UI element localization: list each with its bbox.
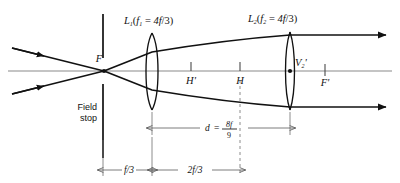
field-stop-label: Field stop bbox=[77, 102, 97, 123]
incoming-ray-upper bbox=[12, 48, 104, 71]
lens1-equals: = bbox=[142, 15, 153, 26]
label-F: F bbox=[95, 53, 103, 64]
label-H-prime: H' bbox=[185, 75, 197, 86]
label-V2-prime: V2' bbox=[295, 57, 307, 69]
lens2-equals: = bbox=[266, 13, 277, 24]
focal-point-F-marker bbox=[102, 69, 106, 73]
lens2-label: L2(f2 = 4f/3) bbox=[247, 13, 298, 25]
vertex-V2-marker bbox=[288, 69, 292, 73]
field-stop-line1: Field bbox=[77, 102, 97, 112]
dimension-d-label: d = 8f 9 bbox=[205, 120, 237, 140]
dimension-stop-to-lens1-label: f/3 bbox=[124, 165, 134, 175]
label-H: H bbox=[235, 75, 245, 86]
svg-text:V2': V2' bbox=[295, 57, 307, 69]
dimension-d bbox=[152, 112, 290, 135]
vertex2-prime: ' bbox=[304, 57, 307, 68]
lens2-focal-value-den: /3 bbox=[286, 13, 294, 24]
svg-text:L1(f1 = 4f/3): L1(f1 = 4f/3) bbox=[123, 15, 174, 27]
label-F-prime: F' bbox=[320, 77, 330, 88]
dimension-d-numerator: 8f bbox=[226, 120, 234, 129]
ray-path-lower bbox=[104, 71, 290, 107]
dimension-d-equals: = bbox=[214, 123, 219, 133]
lens2-close-paren: ) bbox=[294, 13, 298, 25]
lens1-label: L1(f1 = 4f/3) bbox=[123, 15, 174, 27]
ray-path-upper bbox=[104, 35, 290, 71]
optical-ray-diagram: L1(f1 = 4f/3) L2(f2 = 4f/3) F H' H F' V2… bbox=[0, 0, 400, 183]
svg-text:L2(f2 = 4f/3): L2(f2 = 4f/3) bbox=[247, 13, 298, 25]
incoming-ray-lower bbox=[12, 71, 104, 94]
lens1-close-paren: ) bbox=[170, 15, 174, 27]
field-stop-line2: stop bbox=[80, 113, 97, 123]
dimension-d-symbol: d bbox=[205, 123, 210, 133]
lens1-focal-value-den: /3 bbox=[162, 15, 170, 26]
dimension-lens1-to-H-label: 2f/3 bbox=[188, 165, 203, 175]
dimension-d-denominator: 9 bbox=[227, 131, 231, 140]
